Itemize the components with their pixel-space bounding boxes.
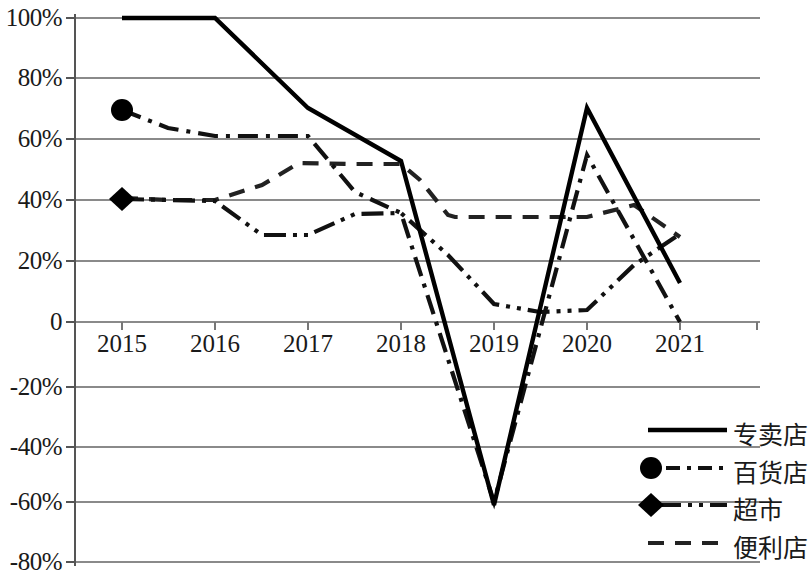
xtick-label-2018: 2018 [356,330,446,358]
ytick-label-neg80: -80% [0,548,62,575]
legend-label-department-store: 百货店 [733,453,808,489]
legend-label-specialty-store: 专卖店 [733,415,808,451]
xtick-label-2020: 2020 [542,330,632,358]
xtick-label-2017: 2017 [263,330,353,358]
ytick-label-40: 40% [0,186,62,214]
xtick-label-2019: 2019 [449,330,539,358]
marker-diamond-supermarket [109,187,135,211]
ytick-label-neg20: -20% [0,373,62,401]
series-line-supermarket [122,199,680,312]
ytick-label-80: 80% [0,64,62,92]
xtick-label-2021: 2021 [635,330,725,358]
y-axis-ticks [66,18,75,562]
ytick-label-neg40: -40% [0,433,62,461]
gridlines [75,18,760,562]
x-axis-ticks [122,322,757,330]
legend-marker-diamond-icon [638,493,664,517]
legend-label-convenience-store: 便利店 [733,528,808,564]
xtick-label-2016: 2016 [170,330,260,358]
ytick-label-60: 60% [0,125,62,153]
ytick-label-20: 20% [0,247,62,275]
ytick-label-100: 100% [0,4,62,32]
xtick-label-2015: 2015 [77,330,167,358]
legend-label-supermarket: 超市 [733,490,783,526]
ytick-label-0: 0 [0,308,62,336]
legend-marker-circle-icon [640,457,662,479]
marker-circle-department-store [111,99,133,121]
ytick-label-neg60: -60% [0,488,62,516]
